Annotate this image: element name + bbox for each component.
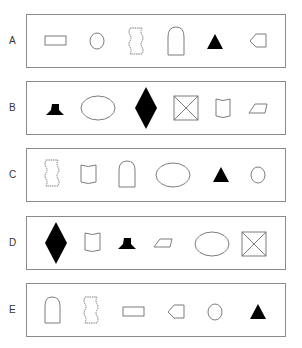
option-row-b[interactable]: B <box>0 80 302 136</box>
cup-icon <box>216 99 230 118</box>
ellipse-icon <box>195 232 229 256</box>
circle-icon <box>208 304 222 320</box>
row-a-shapes <box>0 13 302 69</box>
wavy-rectangle-icon <box>84 297 98 323</box>
filled-triangle-icon <box>207 34 223 49</box>
parallelogram-icon <box>249 104 267 113</box>
row-d-shapes <box>0 215 302 271</box>
ellipse-icon <box>81 96 115 120</box>
wavy-rectangle-icon <box>129 28 143 54</box>
cup-icon <box>85 233 100 252</box>
arch-icon <box>168 27 184 55</box>
option-row-e[interactable]: E <box>0 282 302 338</box>
row-e-shapes <box>0 282 302 338</box>
circle-icon <box>90 33 104 49</box>
filled-pedestal-icon <box>118 238 136 249</box>
crossed-square-icon <box>174 96 198 120</box>
arch-icon <box>45 297 60 323</box>
parallelogram-icon <box>154 239 172 247</box>
arch-icon <box>119 161 135 187</box>
wavy-rectangle-icon <box>45 160 59 186</box>
filled-diamond-icon <box>45 222 67 264</box>
circle-icon <box>251 167 265 183</box>
filled-pedestal-icon <box>46 104 64 115</box>
option-row-c[interactable]: C <box>0 147 302 203</box>
pentagon-icon <box>250 34 266 47</box>
ellipse-icon <box>156 163 190 187</box>
filled-diamond-icon <box>135 87 157 129</box>
filled-triangle-icon <box>250 304 266 319</box>
row-c-shapes <box>0 147 302 203</box>
filled-triangle-icon <box>213 167 229 182</box>
cup-icon <box>81 165 96 184</box>
pentagon-icon <box>168 305 184 318</box>
option-row-d[interactable]: D <box>0 215 302 271</box>
crossed-square-icon <box>242 232 266 256</box>
row-b-shapes <box>0 80 302 136</box>
option-row-a[interactable]: A <box>0 13 302 69</box>
rectangle-icon <box>45 36 66 45</box>
rectangle-icon <box>123 307 144 316</box>
